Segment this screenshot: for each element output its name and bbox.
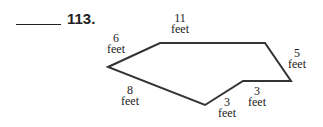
label-right: 5feet (280, 48, 314, 70)
label-upper-left: 6feet (100, 33, 132, 55)
label-top: 11feet (160, 13, 200, 35)
label-lower-right: 3feet (240, 86, 274, 108)
label-lower-left: 8feet (113, 85, 147, 107)
label-bottom-notch: 3feet (210, 97, 244, 119)
